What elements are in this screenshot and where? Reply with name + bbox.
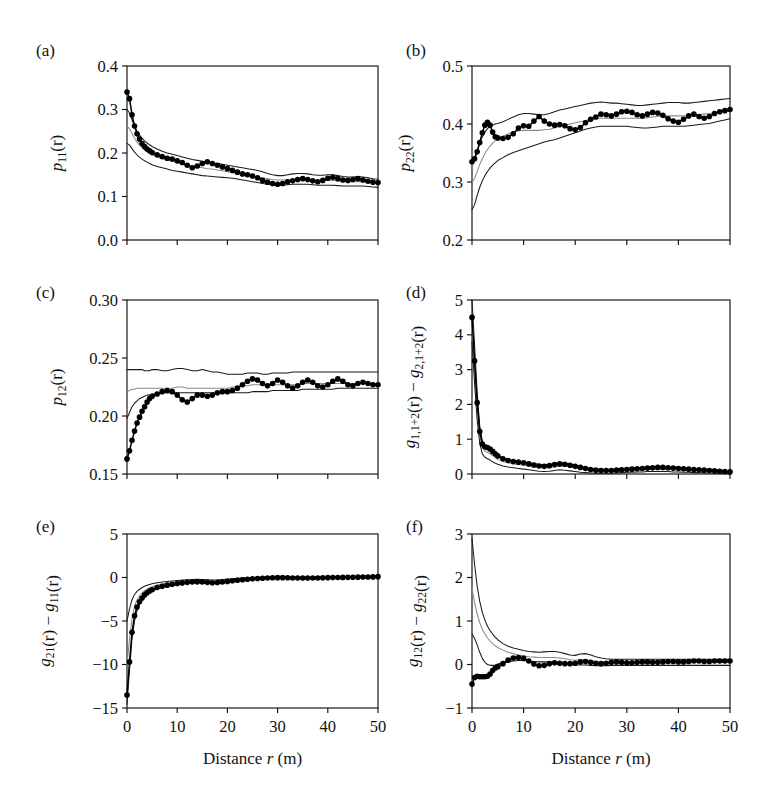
observed-data-point: [510, 459, 516, 465]
observed-data-point: [593, 660, 599, 666]
observed-data-point: [526, 658, 532, 664]
observed-data-point: [225, 166, 231, 172]
observed-data-point: [521, 460, 527, 466]
observed-data-point: [655, 660, 661, 666]
observed-data-point: [174, 158, 180, 164]
y-tick-label: 4: [455, 325, 463, 344]
observed-data-point: [340, 575, 346, 581]
observed-data-point: [639, 113, 645, 119]
observed-data-point: [696, 467, 702, 473]
observed-data-point: [505, 458, 511, 464]
observed-data-point: [578, 125, 584, 131]
observed-data-point: [320, 178, 326, 184]
observed-data-point: [210, 161, 216, 167]
observed-data-point: [350, 177, 356, 183]
observed-data-point: [210, 392, 216, 398]
observed-data-point: [583, 659, 589, 665]
observed-data-point: [472, 358, 478, 364]
observed-data-point: [280, 380, 286, 386]
y-tick-label: 0.4: [97, 57, 118, 76]
observed-data-point: [154, 152, 160, 158]
observed-data-point: [531, 462, 537, 468]
series-lower-envelope: [127, 577, 378, 705]
observed-data-point: [139, 409, 145, 415]
observed-data-point: [557, 660, 563, 666]
observed-data-point: [676, 659, 682, 665]
observed-data-point: [696, 114, 702, 120]
observed-data-point: [200, 392, 206, 398]
observed-data-point: [305, 575, 311, 581]
observed-data-point: [588, 660, 594, 666]
observed-data-point: [681, 117, 687, 123]
observed-data-point: [722, 469, 728, 475]
observed-data-point: [169, 581, 175, 587]
observed-data-point: [665, 116, 671, 122]
y-tick-label: 0: [455, 655, 463, 674]
observed-data-point: [154, 391, 160, 397]
observed-data-point: [477, 429, 483, 435]
observed-data-point: [350, 574, 356, 580]
observed-data-point: [240, 382, 246, 388]
observed-data-point: [355, 574, 361, 580]
observed-data-point: [588, 117, 594, 123]
observed-data-point: [200, 579, 206, 585]
observed-data-point: [129, 112, 135, 118]
y-tick-label: 0.0: [97, 231, 118, 250]
observed-data-point: [536, 663, 542, 669]
observed-data-point: [235, 385, 241, 391]
observed-data-point: [516, 655, 522, 661]
observed-data-point: [225, 579, 231, 585]
y-tick-label: 5: [455, 291, 463, 310]
x-axis-title: Distance r (m): [203, 749, 302, 768]
observed-data-point: [660, 465, 666, 471]
observed-data-point: [619, 660, 625, 666]
observed-data-point: [516, 125, 522, 131]
observed-data-point: [572, 660, 578, 666]
observed-data-point: [142, 144, 148, 150]
series-upper-envelope: [127, 576, 378, 621]
observed-data-point: [250, 376, 256, 382]
observed-data-point: [230, 168, 236, 174]
observed-data-point: [290, 385, 296, 391]
observed-data-point: [132, 123, 138, 129]
observed-data-point: [686, 466, 692, 472]
observed-data-point: [189, 396, 195, 402]
x-tick-label: 50: [370, 717, 387, 736]
observed-data-point: [159, 154, 165, 160]
series-observed: [472, 317, 730, 472]
observed-data-point: [670, 659, 676, 665]
series-lower-envelope: [472, 634, 730, 666]
observed-data-point: [124, 89, 130, 95]
observed-data-point: [557, 461, 563, 467]
series-observed: [472, 110, 730, 162]
observed-data-point: [655, 465, 661, 471]
y-axis-title: p22(r): [395, 135, 416, 173]
observed-data-point: [310, 575, 316, 581]
y-tick-label: −5: [100, 612, 118, 631]
observed-data-point: [174, 581, 180, 587]
observed-data-point: [370, 179, 376, 185]
observed-data-point: [142, 592, 148, 598]
observed-data-point: [184, 580, 190, 586]
observed-data-point: [500, 661, 506, 667]
observed-data-point: [215, 162, 221, 168]
observed-data-point: [567, 126, 573, 132]
observed-data-point: [290, 178, 296, 184]
observed-data-point: [469, 315, 475, 321]
observed-data-point: [547, 121, 553, 127]
observed-data-point: [139, 595, 145, 601]
series-upper-envelope: [472, 538, 730, 659]
observed-data-point: [285, 575, 291, 581]
observed-data-point: [220, 579, 226, 585]
series-upper-envelope: [127, 368, 378, 374]
observed-data-point: [144, 146, 150, 152]
observed-data-point: [149, 150, 155, 156]
observed-data-point: [189, 579, 195, 585]
panel-letter: (b): [406, 41, 426, 60]
observed-data-point: [335, 575, 341, 581]
observed-data-point: [567, 463, 573, 469]
plot-frame: [127, 534, 378, 708]
y-tick-label: 0: [110, 568, 118, 587]
observed-data-point: [134, 604, 140, 610]
observed-data-point: [650, 110, 656, 116]
